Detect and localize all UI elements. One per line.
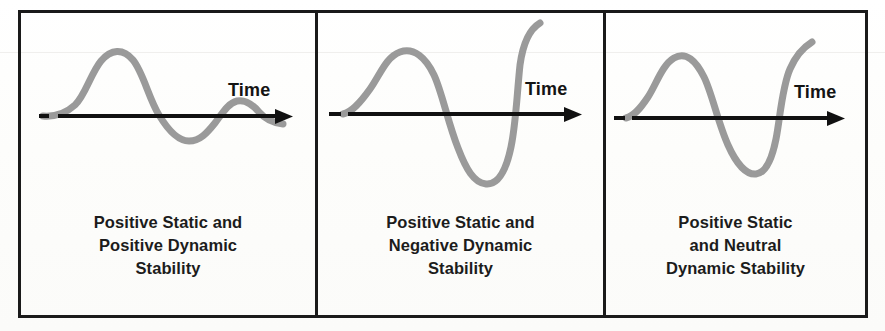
caption-line-2: and Neutral <box>606 234 865 257</box>
figure-border-box: Time Positive Static and Positive Dynami… <box>18 10 868 318</box>
time-axis-label: Time <box>794 82 837 102</box>
time-axis-label: Time <box>228 80 271 100</box>
panel-negative-dynamic-stability: Time Positive Static and Negative Dynami… <box>315 13 603 315</box>
caption-negative-dynamic-stability: Positive Static and Negative Dynamic Sta… <box>318 211 603 280</box>
plot-negative-dynamic-stability: Time <box>318 13 603 213</box>
response-curve-divergent <box>343 23 540 184</box>
curve-svg-neutral: Time <box>606 13 865 213</box>
caption-line-2: Negative Dynamic <box>318 234 603 257</box>
response-curve-neutral <box>626 42 812 174</box>
caption-line-3: Dynamic Stability <box>606 257 865 280</box>
panel-positive-dynamic-stability: Time Positive Static and Positive Dynami… <box>21 13 315 315</box>
caption-line-3: Stability <box>318 257 603 280</box>
caption-line-2: Positive Dynamic <box>21 234 315 257</box>
plot-neutral-dynamic-stability: Time <box>606 13 865 213</box>
panel-neutral-dynamic-stability: Time Positive Static and Neutral Dynamic… <box>603 13 865 315</box>
caption-positive-dynamic-stability: Positive Static and Positive Dynamic Sta… <box>21 211 315 280</box>
time-axis-label: Time <box>525 79 568 99</box>
caption-line-1: Positive Static and <box>21 211 315 234</box>
time-axis-arrowhead <box>564 107 582 122</box>
caption-line-3: Stability <box>21 257 315 280</box>
stability-figure: Time Positive Static and Positive Dynami… <box>0 0 885 331</box>
caption-neutral-dynamic-stability: Positive Static and Neutral Dynamic Stab… <box>606 211 865 280</box>
curve-svg-positive: Time <box>21 13 315 213</box>
time-axis-arrowhead <box>827 111 845 126</box>
curve-svg-negative: Time <box>318 13 603 213</box>
caption-line-1: Positive Static <box>606 211 865 234</box>
plot-positive-dynamic-stability: Time <box>21 13 315 213</box>
caption-line-1: Positive Static and <box>318 211 603 234</box>
